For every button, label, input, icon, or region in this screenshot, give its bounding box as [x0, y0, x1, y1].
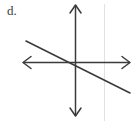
figure-panel: d.: [0, 0, 135, 125]
diagonal-line: [26, 41, 130, 93]
coordinate-plane-graphic: [0, 0, 135, 125]
